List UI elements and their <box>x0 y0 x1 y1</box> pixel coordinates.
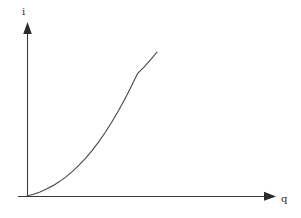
data-curve <box>27 52 157 196</box>
x-axis-arrow-icon <box>264 192 276 201</box>
plot-area <box>0 0 301 218</box>
y-axis-label: i <box>22 7 25 17</box>
figure-canvas: i q <box>0 0 301 218</box>
x-axis-label: q <box>281 194 287 204</box>
y-axis-arrow-icon <box>23 22 32 34</box>
